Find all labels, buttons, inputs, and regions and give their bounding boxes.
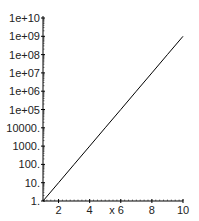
- y-tick-label: 1e+09: [9, 30, 40, 42]
- x-tick-label: 8: [149, 204, 155, 216]
- y-axis: 1.10.100.1000.10000.1e+051e+061e+071e+08…: [6, 12, 45, 207]
- y-tick-label: 100.: [19, 158, 40, 170]
- y-tick-label: 1e+10: [9, 12, 40, 24]
- y-tick-label: 10.: [25, 177, 40, 189]
- y-tick-label: 1.: [31, 195, 40, 207]
- y-tick-label: 1e+06: [9, 85, 40, 97]
- y-tick-label: 1000.: [12, 140, 40, 152]
- y-tick-label: 1e+08: [9, 49, 40, 61]
- x-tick-label: 2: [55, 204, 61, 216]
- y-tick-label: 1e+07: [9, 67, 40, 79]
- x-tick-label: 6: [118, 204, 124, 216]
- x-tick-label: 4: [87, 204, 93, 216]
- x-tick-label: 10: [177, 204, 189, 216]
- y-tick-label: 10000.: [6, 122, 40, 134]
- data-series: [43, 36, 183, 201]
- x-axis-label: x: [109, 204, 115, 216]
- y-tick-label: 1e+05: [9, 104, 40, 116]
- chart: 1.10.100.1000.10000.1e+051e+061e+071e+08…: [0, 0, 199, 221]
- x-axis: 246810: [43, 199, 189, 216]
- series-line: [43, 36, 183, 201]
